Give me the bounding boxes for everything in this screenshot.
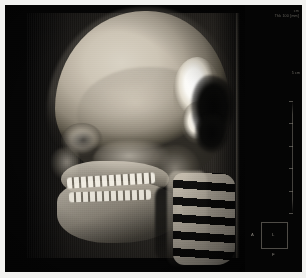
mastoid-air-void: [195, 113, 229, 153]
scale-ruler-label: 5 cm: [292, 71, 300, 75]
orientation-cube[interactable]: A L F: [250, 220, 296, 264]
scale-tick: [289, 146, 293, 147]
scale-tick: [289, 123, 293, 124]
annotation-line-1: cm: [275, 9, 299, 14]
scale-ruler: [286, 101, 293, 213]
image-viewer-frame: cm Thk 100 [mm] 5 cm A L F: [0, 0, 306, 278]
dicom-annotation-top-right: cm Thk 100 [mm]: [275, 9, 299, 19]
orbital-cavity-shadow: [71, 131, 95, 149]
orientation-label-anterior: A: [251, 232, 254, 237]
scale-tick: [289, 101, 293, 102]
scale-ruler-axis: [292, 101, 293, 213]
volume-clip-plane-edge: [236, 13, 240, 258]
scale-tick: [289, 168, 293, 169]
scale-tick: [289, 191, 293, 192]
orientation-label-foot: F: [272, 252, 275, 257]
render-viewport[interactable]: cm Thk 100 [mm] 5 cm A L F: [5, 5, 302, 272]
annotation-line-2: Thk 100 [mm]: [275, 14, 299, 19]
orientation-label-left: L: [272, 232, 274, 237]
scale-tick: [289, 213, 293, 214]
orientation-cube-box: [261, 222, 288, 249]
cervical-spine: [173, 173, 235, 265]
volume-rendering-canvas[interactable]: [5, 5, 245, 272]
